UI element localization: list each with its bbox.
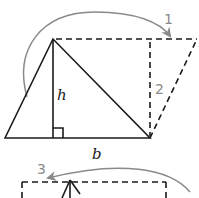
right-angle-marker [53,128,63,138]
height-label: h [57,86,67,104]
step-3-label: 3 [37,161,46,177]
bottom-figure: 3 [22,161,190,198]
step-2-label: 2 [155,81,164,97]
top-figure: 1 2 h b [5,11,197,163]
triangle-area-diagram: 1 2 h b 3 [0,0,199,198]
step-1-label: 1 [164,11,173,27]
base-label: b [92,145,102,163]
